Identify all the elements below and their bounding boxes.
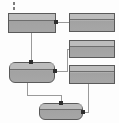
node-n4[interactable] bbox=[69, 65, 115, 84]
edge-n5-n6-seg2 bbox=[27, 95, 62, 96]
port-n5-top[interactable] bbox=[29, 60, 33, 64]
node-n2[interactable] bbox=[69, 13, 115, 32]
node-n6[interactable] bbox=[39, 103, 83, 120]
edge-n5-n3-seg2 bbox=[67, 49, 68, 72]
dash-tick-icon bbox=[13, 7, 15, 10]
node-label bbox=[10, 63, 54, 82]
node-label bbox=[9, 14, 55, 32]
node-n1[interactable] bbox=[8, 13, 56, 33]
node-label bbox=[40, 104, 82, 119]
node-n3[interactable] bbox=[69, 40, 115, 58]
diagram-canvas bbox=[0, 0, 119, 123]
edge-n4-n6-seg1 bbox=[88, 84, 89, 112]
node-label bbox=[70, 41, 114, 57]
node-label bbox=[70, 66, 114, 83]
edge-n1-n2 bbox=[56, 22, 70, 23]
port-n1-right[interactable] bbox=[54, 20, 58, 24]
node-label bbox=[70, 14, 114, 31]
node-n5[interactable] bbox=[9, 62, 55, 83]
port-n6-top[interactable] bbox=[59, 101, 63, 105]
port-n6-right[interactable] bbox=[81, 110, 85, 114]
dash-tick-icon bbox=[13, 2, 15, 5]
port-n5-right[interactable] bbox=[53, 69, 57, 73]
edge-n1-n5 bbox=[31, 33, 32, 62]
